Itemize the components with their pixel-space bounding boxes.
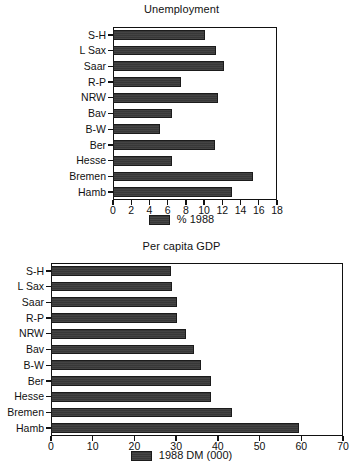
bar bbox=[113, 61, 224, 71]
x-axis-label: 8 bbox=[183, 205, 189, 216]
y-axis-label-b-w: B-W bbox=[86, 124, 106, 135]
y-axis-label-bav: Bav bbox=[26, 344, 44, 355]
y-axis-label-s-h: S-H bbox=[88, 30, 106, 41]
legend-swatch-icon bbox=[149, 215, 170, 225]
bar bbox=[113, 140, 215, 150]
y-axis-label-nrw: NRW bbox=[81, 92, 106, 103]
bar bbox=[113, 109, 172, 119]
y-axis-tick bbox=[46, 286, 51, 287]
y-axis-label-nrw: NRW bbox=[19, 328, 44, 339]
y-axis-label-bav: Bav bbox=[88, 108, 106, 119]
y-axis-label-hamb: Hamb bbox=[16, 423, 44, 434]
y-axis-tick bbox=[46, 333, 51, 334]
x-axis-label: 18 bbox=[271, 205, 283, 216]
bar bbox=[51, 266, 171, 276]
y-axis-tick bbox=[108, 129, 113, 130]
x-axis-label: 50 bbox=[254, 441, 266, 452]
y-axis-tick bbox=[108, 160, 113, 161]
bar bbox=[51, 408, 232, 418]
bar bbox=[51, 360, 201, 370]
y-axis-tick bbox=[108, 81, 113, 82]
y-axis-tick bbox=[46, 396, 51, 397]
per-capita-gdp-chart: Per capita GDP 1988 DM (000) S-HL SaxSaa… bbox=[0, 238, 363, 476]
x-axis-label: 10 bbox=[87, 441, 99, 452]
x-axis-label: 16 bbox=[253, 205, 265, 216]
y-axis-tick bbox=[108, 66, 113, 67]
y-axis-tick bbox=[108, 113, 113, 114]
bar bbox=[113, 77, 181, 87]
x-axis-label: 20 bbox=[129, 441, 141, 452]
y-axis-tick bbox=[108, 191, 113, 192]
y-axis-label-ber: Ber bbox=[90, 140, 106, 151]
y-axis-label-hamb: Hamb bbox=[78, 187, 106, 198]
y-axis-tick bbox=[108, 50, 113, 51]
bar bbox=[113, 93, 218, 103]
y-axis-label-bremen: Bremen bbox=[69, 171, 106, 182]
x-axis-label: 6 bbox=[165, 205, 171, 216]
x-axis-label: 2 bbox=[128, 205, 134, 216]
y-axis-tick bbox=[108, 97, 113, 98]
x-axis-label: 0 bbox=[110, 205, 116, 216]
bar bbox=[113, 187, 232, 197]
x-axis-label: 12 bbox=[216, 205, 228, 216]
bar bbox=[51, 297, 177, 307]
y-axis-tick bbox=[46, 317, 51, 318]
legend-unemployment: % 1988 bbox=[0, 214, 363, 225]
y-axis-label-ber: Ber bbox=[28, 376, 44, 387]
x-axis-label: 60 bbox=[295, 441, 307, 452]
y-axis-tick bbox=[46, 380, 51, 381]
chart-title-gdp: Per capita GDP bbox=[0, 240, 363, 252]
chart-title-unemployment: Unemployment bbox=[0, 3, 363, 15]
y-axis-label-r-p: R-P bbox=[88, 77, 106, 88]
x-axis-label: 70 bbox=[337, 441, 349, 452]
y-axis-tick bbox=[46, 412, 51, 413]
y-axis-label-b-w: B-W bbox=[24, 360, 44, 371]
y-axis-label-bremen: Bremen bbox=[7, 407, 44, 418]
y-axis-tick bbox=[46, 365, 51, 366]
y-axis-tick bbox=[108, 144, 113, 145]
bar bbox=[51, 376, 211, 386]
y-axis-tick bbox=[108, 176, 113, 177]
x-axis-label: 0 bbox=[48, 441, 54, 452]
bar bbox=[113, 30, 205, 40]
y-axis-tick bbox=[46, 270, 51, 271]
bar bbox=[113, 124, 160, 134]
y-axis-tick bbox=[46, 349, 51, 350]
bar bbox=[51, 345, 194, 355]
x-axis-label: 14 bbox=[235, 205, 247, 216]
x-axis-label: 10 bbox=[198, 205, 210, 216]
y-axis-label-l-sax: L Sax bbox=[80, 45, 106, 56]
x-axis-label: 40 bbox=[212, 441, 224, 452]
bar bbox=[51, 423, 299, 433]
y-axis-tick bbox=[108, 34, 113, 35]
bar bbox=[113, 46, 216, 56]
bar bbox=[51, 282, 172, 292]
bar bbox=[51, 313, 177, 323]
unemployment-chart: Unemployment % 1988 S-HL SaxSaarR-PNRWBa… bbox=[0, 0, 363, 238]
x-axis-label: 30 bbox=[170, 441, 182, 452]
y-axis-tick bbox=[46, 427, 51, 428]
bar bbox=[113, 156, 172, 166]
y-axis-label-l-sax: L Sax bbox=[18, 281, 44, 292]
bar bbox=[51, 329, 186, 339]
y-axis-tick bbox=[46, 302, 51, 303]
bar bbox=[113, 172, 253, 182]
bar bbox=[51, 392, 211, 402]
y-axis-label-s-h: S-H bbox=[26, 266, 44, 277]
y-axis-label-hesse: Hesse bbox=[76, 155, 106, 166]
legend-swatch-icon bbox=[131, 451, 152, 461]
y-axis-label-hesse: Hesse bbox=[14, 391, 44, 402]
y-axis-label-saar: Saar bbox=[84, 61, 106, 72]
x-axis-label: 4 bbox=[147, 205, 153, 216]
y-axis-label-r-p: R-P bbox=[26, 313, 44, 324]
y-axis-label-saar: Saar bbox=[22, 297, 44, 308]
